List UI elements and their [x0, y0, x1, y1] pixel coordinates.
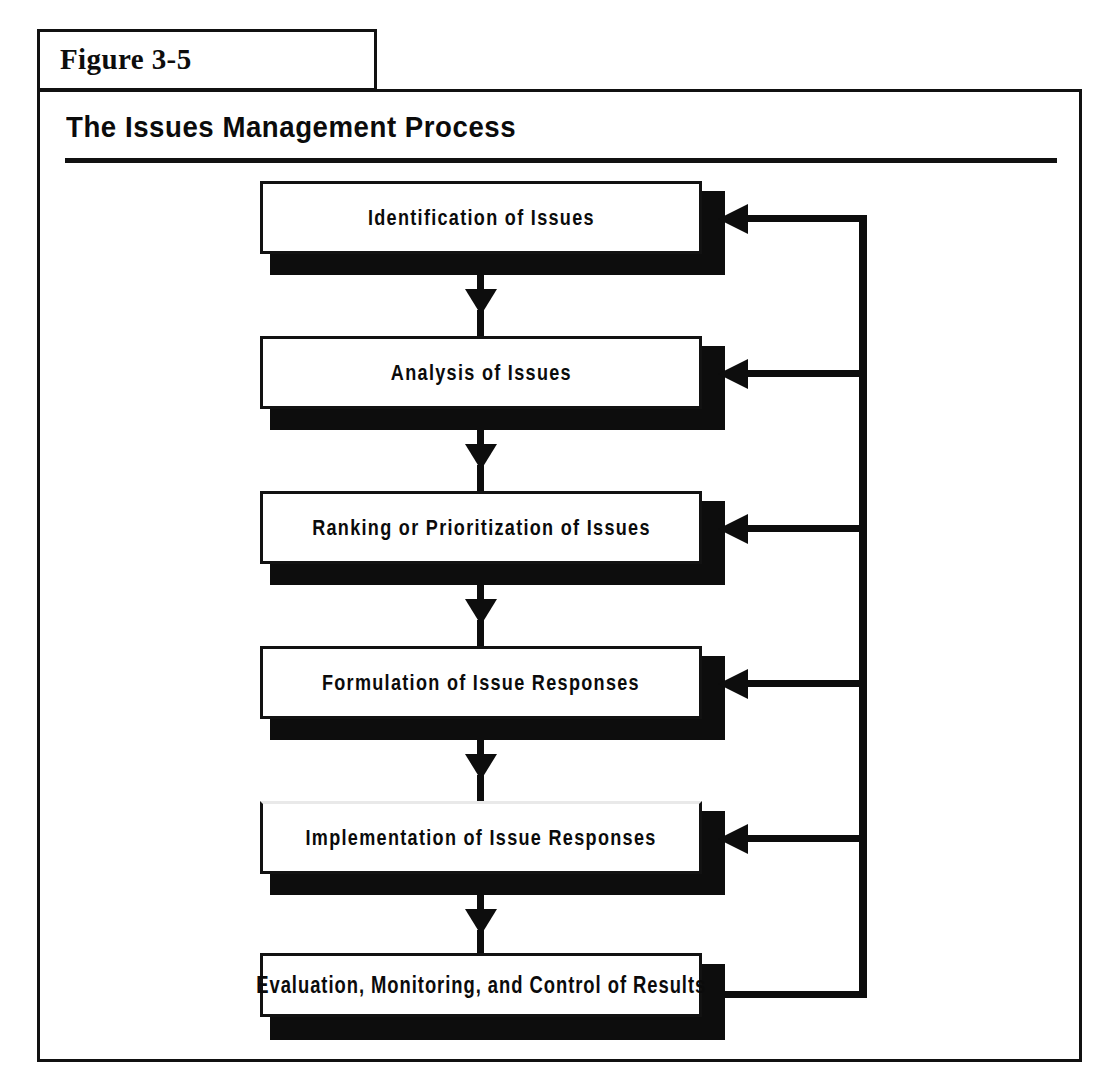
node-analysis[interactable]: Analysis of Issues — [260, 336, 702, 409]
node-implementation[interactable]: Implementation of Issue Responses — [260, 801, 702, 874]
figure-label-tab: Figure 3-5 — [37, 29, 377, 91]
feedback-arrow-head-ranking — [718, 514, 748, 544]
node-label-formulation: Formulation of Issue Responses — [322, 670, 640, 696]
node-label-analysis: Analysis of Issues — [390, 360, 571, 386]
feedback-branch-formulation — [739, 680, 866, 687]
feedback-arrow-head-identification — [718, 204, 748, 234]
flow-arrow-tail-2 — [477, 465, 484, 491]
feedback-branch-analysis — [739, 370, 866, 377]
node-label-ranking: Ranking or Prioritization of Issues — [312, 515, 651, 541]
flow-arrow-tail-4 — [477, 775, 484, 801]
flow-arrow-tail-1 — [477, 310, 484, 336]
feedback-branch-implementation — [739, 835, 866, 842]
flow-arrow-tail-3 — [477, 620, 484, 646]
feedback-arrow-head-analysis — [718, 359, 748, 389]
flow-arrow-tail-5 — [477, 930, 484, 954]
node-label-identification: Identification of Issues — [368, 205, 595, 231]
feedback-branch-ranking — [739, 525, 866, 532]
node-label-implementation: Implementation of Issue Responses — [305, 825, 656, 851]
node-label-evaluation: Evaluation, Monitoring, and Control of R… — [256, 972, 706, 999]
feedback-arrow-head-formulation — [718, 669, 748, 699]
feedback-exit-segment — [708, 991, 866, 998]
feedback-trunk-line — [859, 215, 867, 998]
figure-frame: The Issues Management Process Identifica… — [37, 89, 1082, 1062]
process-flow-diagram: Identification of Issues Analysis of Iss… — [40, 92, 1085, 1065]
feedback-arrow-head-implementation — [718, 824, 748, 854]
node-ranking[interactable]: Ranking or Prioritization of Issues — [260, 491, 702, 564]
figure-label-text: Figure 3-5 — [60, 43, 192, 76]
node-formulation[interactable]: Formulation of Issue Responses — [260, 646, 702, 719]
figure-page: Figure 3-5 The Issues Management Process… — [0, 0, 1104, 1087]
node-evaluation[interactable]: Evaluation, Monitoring, and Control of R… — [260, 953, 702, 1017]
feedback-branch-identification — [739, 215, 866, 222]
node-identification[interactable]: Identification of Issues — [260, 181, 702, 254]
